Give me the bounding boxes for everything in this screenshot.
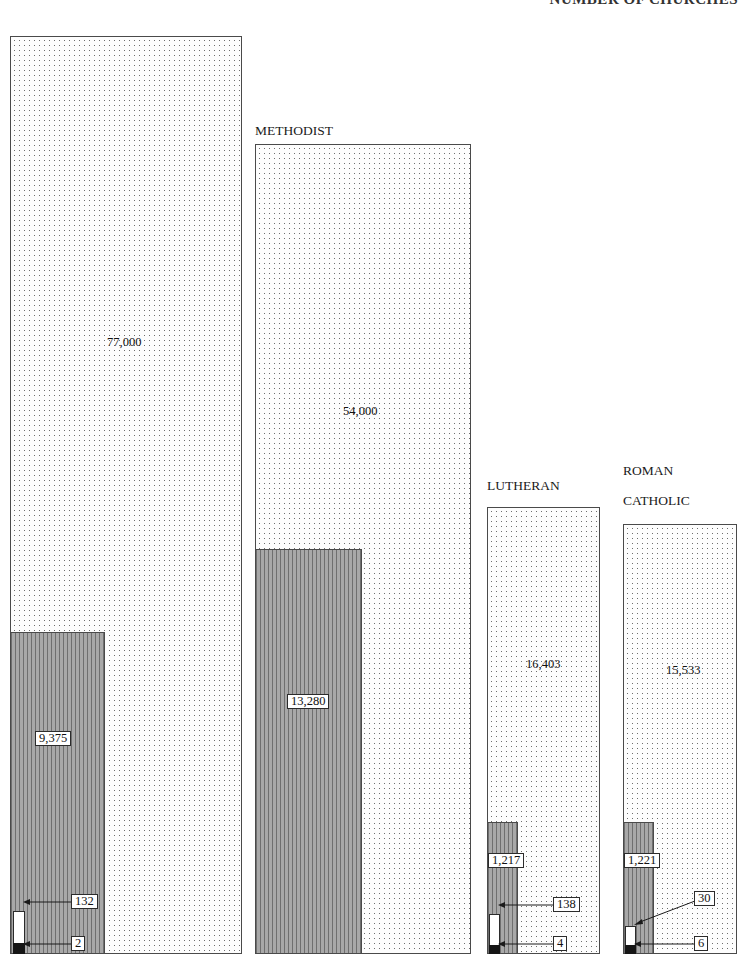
leader-line-roman-catholic-third: [634, 898, 696, 926]
leader-line-baptist-fourth: [23, 939, 73, 949]
value-label-roman-catholic-second: 1,221: [624, 853, 660, 868]
group-label-methodist: METHODIST: [255, 123, 333, 138]
value-label-roman-catholic-third: 30: [694, 891, 715, 906]
value-label-lutheran-third: 138: [553, 897, 580, 912]
group-label-roman-catholic: ROMAN CATHOLIC: [623, 448, 690, 508]
value-label-roman-catholic-total: 15,533: [666, 664, 700, 677]
leader-line-lutheran-fourth: [498, 939, 555, 949]
value-label-baptist-second: 9,375: [35, 731, 71, 746]
group-label-roman-catholic-line1: ROMAN: [623, 463, 673, 478]
value-label-lutheran-second: 1,217: [488, 853, 524, 868]
value-label-baptist-fourth: 2: [71, 936, 85, 951]
value-label-lutheran-total: 16,403: [526, 658, 560, 671]
chart-canvas: NUMBER OF CHURCHES 77,000 9,375 132: [0, 0, 744, 954]
value-label-methodist-total: 54,000: [343, 405, 377, 418]
bar-group-roman-catholic: ROMAN CATHOLIC 15,533 1,221 30 6: [623, 0, 737, 954]
group-label-roman-catholic-line2: CATHOLIC: [623, 493, 690, 508]
bar-methodist-second[interactable]: [255, 549, 362, 954]
leader-line-roman-catholic-fourth: [634, 939, 696, 949]
value-label-methodist-second: 13,280: [287, 694, 329, 709]
value-label-roman-catholic-fourth: 6: [694, 936, 708, 951]
leader-line-baptist-third: [23, 897, 73, 907]
value-label-baptist-third: 132: [71, 894, 98, 909]
value-label-baptist-total: 77,000: [107, 336, 141, 349]
group-label-lutheran: LUTHERAN: [487, 478, 560, 493]
bar-group-lutheran: LUTHERAN 16,403 1,217 138 4: [487, 0, 600, 954]
leader-line-lutheran-third: [498, 900, 555, 910]
value-label-lutheran-fourth: 4: [553, 936, 567, 951]
bar-group-methodist: METHODIST 54,000 13,280: [255, 0, 471, 954]
bar-group-baptist: 77,000 9,375 132 2: [10, 20, 242, 954]
